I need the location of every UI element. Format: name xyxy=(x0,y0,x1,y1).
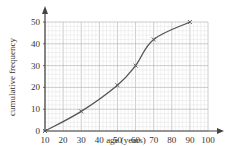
x-tick-label: 90 xyxy=(185,135,195,145)
y-tick-label: 10 xyxy=(31,104,41,114)
chart-canvas: 10203040506070809010001020304050 age (ye… xyxy=(0,0,236,146)
x-tick-label: 80 xyxy=(167,135,177,145)
y-tick-label: 20 xyxy=(31,82,41,92)
y-axis-label: cumulative frequency xyxy=(7,37,17,116)
y-axis-arrow-icon xyxy=(42,6,48,14)
tick-labels: 10203040506070809010001020304050 xyxy=(31,17,215,145)
y-tick-label: 40 xyxy=(31,39,41,49)
y-tick-label: 30 xyxy=(31,61,41,71)
x-axis-arrow-icon xyxy=(217,128,224,134)
x-tick-label: 10 xyxy=(41,135,51,145)
y-tick-label: 50 xyxy=(31,17,41,27)
x-tick-label: 100 xyxy=(201,135,215,145)
cumulative-frequency-chart: 10203040506070809010001020304050 age (ye… xyxy=(0,0,236,146)
y-tick-label: 0 xyxy=(36,126,41,136)
x-tick-label: 20 xyxy=(59,135,69,145)
x-tick-label: 30 xyxy=(77,135,87,145)
x-tick-label: 40 xyxy=(95,135,105,145)
x-axis-label: age (years) xyxy=(106,135,146,145)
x-tick-label: 70 xyxy=(149,135,159,145)
